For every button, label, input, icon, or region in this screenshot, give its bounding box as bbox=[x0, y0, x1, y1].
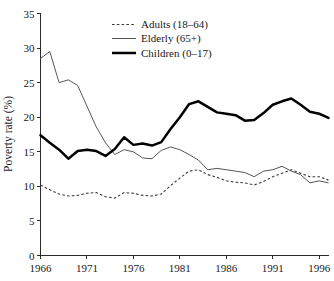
series-line-elderly bbox=[41, 52, 329, 183]
x-tick-label: 1991 bbox=[262, 262, 284, 274]
series-line-adults bbox=[41, 170, 329, 198]
chart-canvas: Poverty rate (%) 05101520253035 19661971… bbox=[0, 0, 334, 281]
data-series-group bbox=[41, 52, 329, 199]
y-tick-label: 20 bbox=[24, 111, 36, 123]
x-tick-label: 1981 bbox=[169, 262, 191, 274]
x-axis-ticks: 1966197119761981198619911996 bbox=[30, 256, 331, 274]
y-tick-label: 10 bbox=[24, 180, 36, 192]
y-axis-ticks: 05101520253035 bbox=[24, 8, 41, 262]
x-tick-label: 1976 bbox=[122, 262, 145, 274]
y-tick-label: 30 bbox=[24, 42, 36, 54]
x-tick-label: 1966 bbox=[30, 262, 53, 274]
y-axis-title: Poverty rate (%) bbox=[2, 96, 15, 172]
x-tick-label: 1986 bbox=[215, 262, 238, 274]
chart-legend: Adults (18–64) Elderly (65+) Children (0… bbox=[112, 18, 212, 60]
legend-label-children: Children (0–17) bbox=[141, 47, 212, 60]
y-tick-label: 35 bbox=[24, 8, 36, 20]
legend-label-elderly: Elderly (65+) bbox=[141, 32, 201, 45]
y-tick-label: 25 bbox=[24, 77, 36, 89]
x-tick-label: 1971 bbox=[76, 262, 98, 274]
y-tick-label: 0 bbox=[29, 250, 35, 262]
series-line-children bbox=[41, 99, 329, 159]
y-tick-label: 5 bbox=[29, 215, 35, 227]
x-tick-label: 1996 bbox=[308, 262, 331, 274]
y-tick-label: 15 bbox=[24, 146, 36, 158]
legend-label-adults: Adults (18–64) bbox=[141, 18, 208, 31]
poverty-rate-line-chart: Poverty rate (%) 05101520253035 19661971… bbox=[0, 0, 334, 281]
